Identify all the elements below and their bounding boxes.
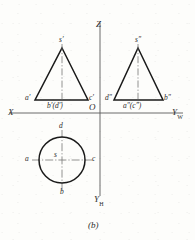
front-view-left-label: a′: [25, 94, 30, 102]
top-view-center-label: s: [54, 151, 57, 159]
yh-axis-subscript: H: [99, 201, 103, 207]
front-view-base-label: b′(d′): [47, 102, 63, 110]
top-view-right-label: c: [92, 155, 95, 163]
figure-page: X Z O YW YH s′ a′ c′ b′(d′) s″ d″ b″ a″(…: [0, 0, 195, 240]
axis-group: [9, 23, 183, 196]
yw-axis-label: YW: [172, 108, 183, 119]
side-view-triangle: [114, 44, 163, 105]
figure-caption: (b): [88, 221, 99, 230]
front-view-outline: [35, 48, 88, 100]
top-view-left-label: a: [25, 155, 29, 163]
side-view-left-label: d″: [105, 94, 112, 102]
x-axis-label: X: [8, 108, 14, 117]
yh-axis-label: YH: [94, 195, 103, 206]
side-view-base-label: a″(c″): [123, 102, 141, 110]
side-view-apex-label: s″: [135, 36, 141, 44]
side-view-outline: [114, 48, 163, 100]
yw-axis-subscript: W: [177, 114, 183, 120]
side-view-right-label: b″: [164, 94, 171, 102]
front-view-triangle: [35, 44, 88, 105]
top-view-top-label: d: [59, 122, 63, 130]
front-view-right-label: c′: [89, 94, 94, 102]
top-view-circle: [32, 130, 92, 190]
origin-label: O: [89, 103, 96, 112]
top-view-bottom-label: b: [60, 188, 64, 196]
front-view-apex-label: s′: [59, 36, 64, 44]
z-axis-label: Z: [96, 20, 101, 29]
